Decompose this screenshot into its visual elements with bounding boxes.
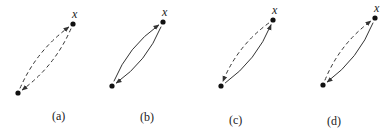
panel-label: (c) — [229, 113, 242, 127]
panel-d: x (d) — [320, 1, 380, 128]
bottom-point — [15, 90, 20, 95]
right-arc — [225, 25, 271, 83]
panel-label: (a) — [52, 109, 65, 123]
point-label-x: x — [373, 1, 380, 15]
point-label-x: x — [161, 5, 168, 19]
right-arc — [327, 23, 373, 82]
top-point — [270, 17, 275, 22]
panel-label: (d) — [327, 114, 341, 128]
point-label-x: x — [71, 7, 78, 21]
panel-c: x (c) — [218, 3, 278, 127]
right-arc — [22, 29, 71, 90]
point-label-x: x — [271, 3, 278, 17]
top-point — [160, 19, 165, 24]
left-arc — [114, 25, 159, 81]
panel-a: x (a) — [15, 7, 78, 123]
right-arc — [116, 27, 161, 83]
left-arc — [223, 23, 269, 81]
bottom-point — [320, 82, 325, 87]
top-point — [372, 15, 377, 20]
panel-label: (b) — [140, 110, 154, 124]
bottom-point — [218, 83, 223, 88]
bottom-point — [109, 83, 114, 88]
panel-b: x (b) — [109, 5, 168, 124]
left-arc — [20, 27, 69, 88]
figure-canvas: x (a) x (b) x (c) x (d) — [0, 0, 391, 136]
top-point — [70, 21, 75, 26]
left-arc — [325, 21, 371, 80]
